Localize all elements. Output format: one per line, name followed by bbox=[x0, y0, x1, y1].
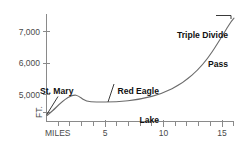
annotation-triple-divide-pass: Triple Divide Pass bbox=[160, 12, 228, 89]
x-axis-label-15: 15 bbox=[217, 128, 227, 138]
leader-line-st-mary bbox=[47, 97, 58, 115]
y-axis-label-5000: 5,000 bbox=[19, 90, 41, 100]
annotation-triple-divide-line1: Triple Divide bbox=[160, 31, 228, 41]
y-axis-label-7000: 7,000 bbox=[19, 27, 41, 37]
annotation-red-eagle-line1: Red Eagle bbox=[101, 87, 159, 97]
annotation-triple-divide-line2: Pass bbox=[160, 60, 228, 70]
annotation-red-eagle-line2: Lake bbox=[101, 116, 159, 126]
annotation-red-eagle-lake: Red Eagle Lake bbox=[101, 68, 159, 145]
x-axis-label-10: 10 bbox=[159, 128, 169, 138]
y-axis-unit-label: FT. bbox=[34, 106, 44, 118]
x-axis-unit-label: MILES bbox=[45, 128, 71, 138]
annotation-st-mary: St. Mary bbox=[40, 87, 73, 97]
y-axis-label-6000: 6,000 bbox=[19, 58, 41, 68]
elevation-profile-chart: 7,000 6,000 5,000 FT. 5 10 15 bbox=[0, 0, 252, 151]
